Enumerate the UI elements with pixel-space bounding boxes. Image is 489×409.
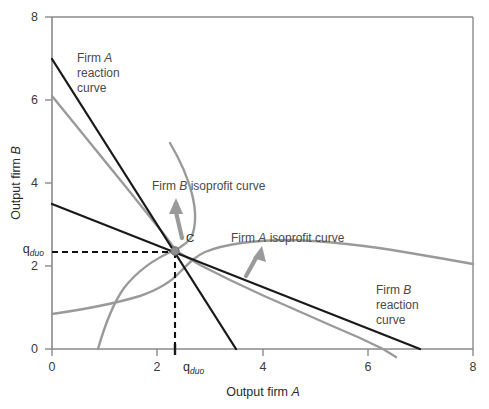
x-tick-label-4: 4: [260, 360, 267, 374]
svg-text:curve: curve: [77, 81, 107, 95]
x-tick-label-2: 2: [154, 360, 161, 374]
firm-b-isoprofit-arrow-shaft: [176, 212, 182, 238]
firm-b-reaction-curve-line: [52, 204, 420, 349]
y-tick-label-0: 0: [31, 342, 38, 356]
y-axis-title: Output firm B: [9, 146, 23, 220]
x-axis-ticks: [52, 349, 473, 356]
cournot-duopoly-chart: 0 2 4 6 8 0 2 4 6 8 qduo qduo Output fir…: [0, 0, 489, 409]
svg-text:reaction: reaction: [376, 298, 419, 312]
svg-text:curve: curve: [376, 313, 406, 327]
firm-b-isoprofit-arrow-head: [169, 198, 183, 214]
y-tick-label-6: 6: [31, 93, 38, 107]
svg-text:reaction: reaction: [77, 66, 120, 80]
annotation-firm-a-reaction-curve: Firm A reaction curve: [77, 51, 120, 95]
isoprofit-curves: [52, 96, 473, 357]
equilibrium-guides: [52, 252, 175, 349]
qduo-x-label: qduo: [183, 360, 204, 376]
qduo-y-label: qduo: [23, 242, 44, 258]
annotation-firm-b-isoprofit-curve: Firm B isoprofit curve: [152, 179, 266, 193]
x-tick-label-8: 8: [470, 360, 477, 374]
y-tick-label-8: 8: [31, 10, 38, 24]
svg-text:Firm B: Firm B: [376, 283, 411, 297]
x-axis-title: Output firm A: [226, 385, 300, 399]
firm-b-isoprofit-parabola: [98, 143, 195, 349]
y-axis-ticks: [45, 17, 52, 349]
svg-text:Firm B isoprofit curve: Firm B isoprofit curve: [152, 179, 266, 193]
equilibrium-point-marker: [171, 247, 179, 255]
svg-text:Firm A isoprofit curve: Firm A isoprofit curve: [231, 231, 345, 245]
equilibrium-point-label: C: [186, 232, 194, 244]
chart-svg: 0 2 4 6 8 0 2 4 6 8 qduo qduo Output fir…: [0, 0, 489, 409]
firm-a-reaction-curve-line: [52, 59, 236, 349]
y-tick-label-4: 4: [31, 176, 38, 190]
annotation-firm-a-isoprofit-curve: Firm A isoprofit curve: [231, 231, 345, 245]
x-tick-label-0: 0: [49, 360, 56, 374]
annotation-firm-b-reaction-curve: Firm B reaction curve: [376, 283, 419, 327]
x-tick-label-6: 6: [365, 360, 372, 374]
firm-a-isoprofit-arrow-shaft: [246, 258, 256, 276]
svg-text:Firm A: Firm A: [77, 51, 112, 65]
y-tick-label-2: 2: [31, 259, 38, 273]
